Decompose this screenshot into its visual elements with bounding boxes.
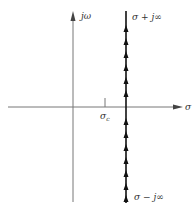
jw-axis-label: jω [79, 11, 92, 21]
arrow-up-icon [124, 77, 129, 84]
contour-diagram: σ jω σc σ + j∞ σ − j∞ [0, 0, 192, 209]
sigma-axis-label: σ [185, 102, 192, 112]
contour-top-label: σ + j∞ [132, 12, 162, 22]
arrow-up-icon [124, 51, 129, 58]
arrow-up-icon [124, 183, 129, 190]
arrow-up-icon [124, 157, 129, 164]
arrow-up-icon [124, 38, 129, 45]
arrow-up-icon [124, 144, 129, 151]
arrow-up-icon [124, 195, 129, 202]
arrow-up-icon [124, 170, 129, 177]
jw-axis-arrow-icon [71, 11, 76, 21]
sigma-axis-arrow-icon [173, 105, 183, 110]
arrow-up-icon [124, 118, 129, 125]
arrow-up-icon [124, 25, 129, 32]
arrow-up-icon [124, 90, 129, 97]
contour-bottom-label: σ − j∞ [134, 192, 164, 202]
arrow-up-icon [124, 64, 129, 71]
arrow-up-icon [124, 131, 129, 138]
sigma-c-label: σc [100, 111, 110, 122]
